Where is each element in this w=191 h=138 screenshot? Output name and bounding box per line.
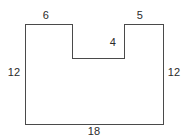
dimension-label-notch-depth: 4: [110, 37, 116, 48]
dimension-label-bottom-side: 18: [88, 126, 101, 137]
dimension-label-top-right: 5: [137, 10, 143, 21]
geometry-figure: 6 5 4 12 12 18: [0, 0, 191, 138]
polygon-shape: [0, 0, 191, 138]
dimension-label-top-left: 6: [43, 10, 49, 21]
dimension-label-right-side: 12: [168, 67, 181, 78]
dimension-label-left-side: 12: [8, 67, 21, 78]
notched-rectangle-outline: [25, 24, 163, 124]
